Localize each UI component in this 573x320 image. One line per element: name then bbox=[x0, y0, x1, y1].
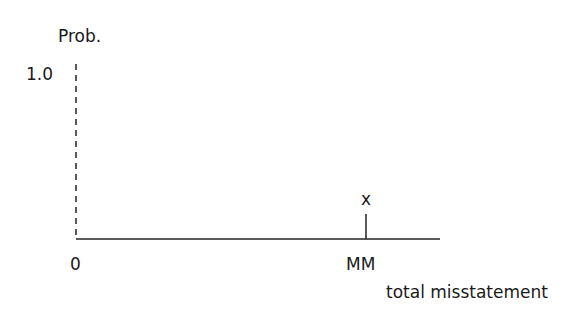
x-axis-label: total misstatement bbox=[386, 284, 548, 301]
y-axis-label: Prob. bbox=[58, 28, 101, 45]
point-marker: x bbox=[361, 191, 371, 208]
x-point-label: MM bbox=[346, 256, 375, 273]
y-tick-label: 1.0 bbox=[26, 66, 53, 83]
diagram-canvas bbox=[0, 0, 573, 320]
x-origin-label: 0 bbox=[70, 256, 81, 273]
